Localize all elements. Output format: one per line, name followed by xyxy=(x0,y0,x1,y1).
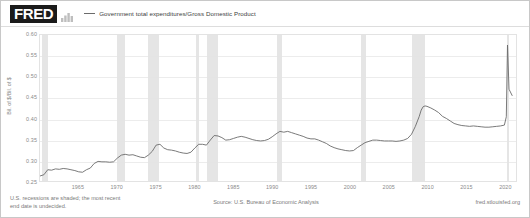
y-tick-label: 0.45 xyxy=(3,94,37,100)
x-tick-label: 2010 xyxy=(421,184,433,190)
series-line xyxy=(40,35,516,181)
y-tick-label: 0.55 xyxy=(3,52,37,58)
chart-header: FRED Government total expenditures/Gross… xyxy=(1,1,530,27)
x-axis-ticks: 1965197019751980198519901995200020052010… xyxy=(39,184,517,194)
chart-legend: Government total expenditures/Gross Dome… xyxy=(84,10,256,17)
x-tick-label: 1980 xyxy=(188,184,200,190)
source-label: Source: U.S. Bureau of Economic Analysis xyxy=(1,199,530,205)
x-tick-label: 2000 xyxy=(344,184,356,190)
y-tick-label: 0.25 xyxy=(3,179,37,185)
x-tick-label: 1970 xyxy=(111,184,123,190)
bar-chart-icon xyxy=(61,8,73,19)
x-tick-label: 2015 xyxy=(460,184,472,190)
attribution-link[interactable]: fred.stlouisfed.org xyxy=(476,199,520,205)
x-tick-label: 1985 xyxy=(227,184,239,190)
fred-logo[interactable]: FRED xyxy=(10,5,57,23)
y-tick-label: 0.40 xyxy=(3,116,37,122)
fred-chart-container: FRED Government total expenditures/Gross… xyxy=(0,0,530,218)
plot-area xyxy=(39,34,517,182)
x-tick-label: 1975 xyxy=(149,184,161,190)
x-tick-label: 1965 xyxy=(72,184,84,190)
legend-label: Government total expenditures/Gross Dome… xyxy=(99,10,256,17)
legend-line-swatch xyxy=(84,13,95,14)
x-tick-label: 1995 xyxy=(305,184,317,190)
x-tick-label: 1990 xyxy=(266,184,278,190)
y-axis-ticks: 0.600.550.500.450.400.350.300.25 xyxy=(1,34,37,182)
y-tick-label: 0.30 xyxy=(3,158,37,164)
y-tick-label: 0.35 xyxy=(3,137,37,143)
x-tick-label: 2020 xyxy=(499,184,511,190)
y-tick-label: 0.50 xyxy=(3,73,37,79)
y-tick-label: 0.60 xyxy=(3,31,37,37)
x-tick-label: 2005 xyxy=(383,184,395,190)
